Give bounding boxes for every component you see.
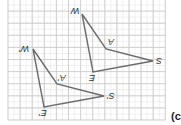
grid-diagram bbox=[0, 0, 181, 125]
vertex-label-a-prime: A' bbox=[58, 73, 66, 82]
vertex-label-w-prime: W' bbox=[19, 44, 29, 53]
vertex-label-a: A bbox=[108, 37, 114, 46]
figure-caption: (c bbox=[171, 110, 181, 122]
minor-grid-lines bbox=[8, 0, 165, 120]
vertex-label-s-prime: S' bbox=[107, 91, 115, 100]
vertex-label-e-prime: E' bbox=[39, 108, 47, 117]
vertex-label-w: W bbox=[71, 6, 80, 15]
vertex-label-s: S bbox=[156, 56, 162, 65]
vertex-label-e: E bbox=[89, 73, 95, 82]
